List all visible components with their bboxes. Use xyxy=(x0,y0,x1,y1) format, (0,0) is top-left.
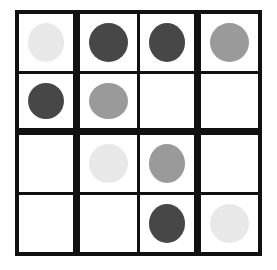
board-wrapper xyxy=(0,0,277,270)
token-r3c3[interactable] xyxy=(149,144,185,183)
token-r3c2[interactable] xyxy=(89,144,128,183)
grid-cell-r4c2[interactable] xyxy=(80,195,138,252)
token-r1c1[interactable] xyxy=(28,23,64,62)
grid-cell-r3c4[interactable] xyxy=(201,135,259,192)
grid-cell-r2c4[interactable] xyxy=(201,74,259,127)
grid-cell-r1c3[interactable] xyxy=(140,14,194,71)
grid-cell-r4c3[interactable] xyxy=(140,195,194,252)
grid-cell-r1c4[interactable] xyxy=(201,14,259,71)
grid-cell-r2c2[interactable] xyxy=(80,74,138,127)
token-r1c2[interactable] xyxy=(89,23,128,62)
grid-cell-r4c4[interactable] xyxy=(201,195,259,252)
token-r1c4[interactable] xyxy=(210,23,249,62)
grid-cell-r3c2[interactable] xyxy=(80,135,138,192)
grid-cell-r2c1[interactable] xyxy=(19,74,73,127)
token-r4c3[interactable] xyxy=(149,204,185,243)
grid-cell-r3c1[interactable] xyxy=(19,135,73,192)
token-r2c1[interactable] xyxy=(28,83,64,119)
grid-cell-r1c2[interactable] xyxy=(80,14,138,71)
token-r1c3[interactable] xyxy=(149,23,185,62)
grid-cell-r2c3[interactable] xyxy=(140,74,194,127)
token-r4c4[interactable] xyxy=(210,204,249,243)
grid-cell-r1c1[interactable] xyxy=(19,14,73,71)
grid-cell-r4c1[interactable] xyxy=(19,195,73,252)
grid-cell-r3c3[interactable] xyxy=(140,135,194,192)
token-r2c2[interactable] xyxy=(89,83,128,119)
grid-board[interactable] xyxy=(15,10,262,256)
